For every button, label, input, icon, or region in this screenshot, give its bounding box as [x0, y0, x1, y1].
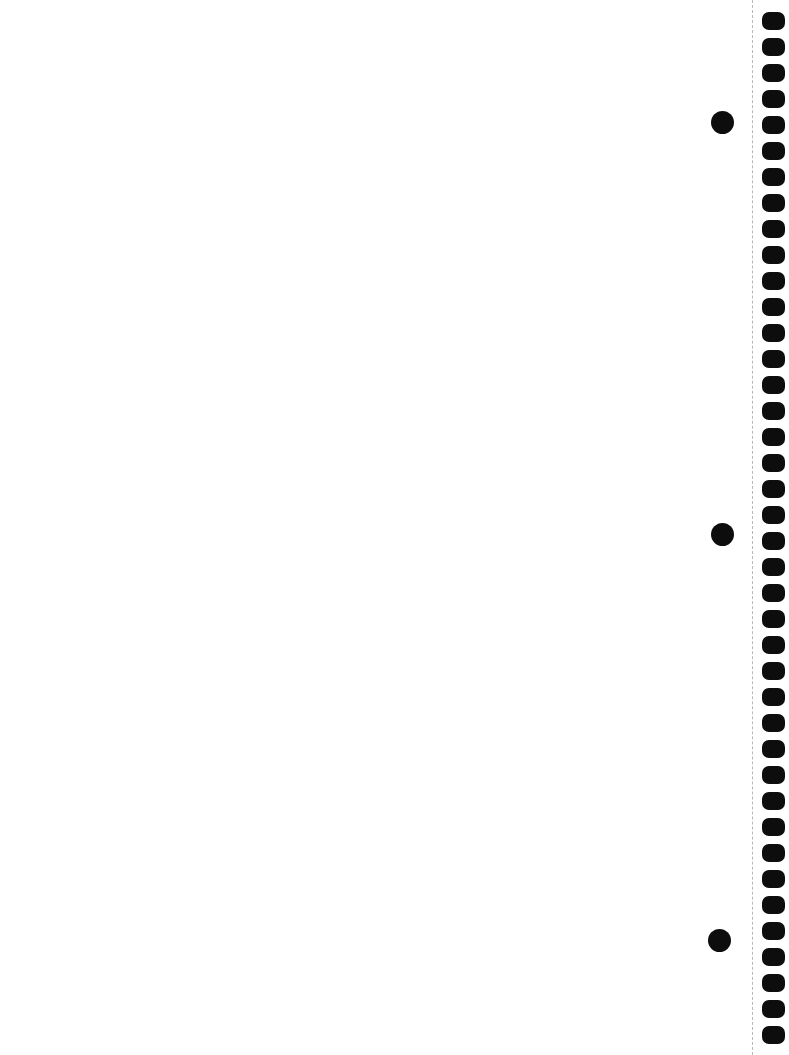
binding-punch-hole — [762, 116, 785, 134]
binding-punch-hole — [762, 948, 785, 966]
binding-punch-hole — [762, 350, 785, 368]
binding-punch-hole — [762, 818, 785, 836]
binding-punch-hole — [762, 220, 785, 238]
binding-punch-hole — [762, 38, 785, 56]
binding-punch-hole — [762, 402, 785, 420]
perforation-dashed-line — [752, 0, 753, 1055]
binding-punch-hole — [762, 662, 785, 680]
binding-punch-hole — [762, 142, 785, 160]
binding-punch-hole — [762, 896, 785, 914]
binding-punch-hole — [762, 428, 785, 446]
margin-mark-bottom — [708, 929, 731, 952]
binding-punch-hole — [762, 12, 785, 30]
binding-punch-hole — [762, 922, 785, 940]
binding-punch-hole — [762, 610, 785, 628]
binding-punch-hole — [762, 480, 785, 498]
binding-punch-hole — [762, 168, 785, 186]
binding-punch-hole — [762, 792, 785, 810]
binding-punch-hole — [762, 64, 785, 82]
blank-writing-area — [0, 0, 745, 1055]
binding-punch-hole — [762, 246, 785, 264]
binding-punch-hole — [762, 506, 785, 524]
binding-punch-hole — [762, 584, 785, 602]
binding-punch-hole — [762, 454, 785, 472]
binding-punch-hole — [762, 688, 785, 706]
binding-punch-hole — [762, 974, 785, 992]
binding-punch-hole — [762, 766, 785, 784]
binding-punch-hole — [762, 1026, 785, 1044]
binding-punch-hole — [762, 870, 785, 888]
margin-mark-middle — [711, 523, 734, 546]
binding-punch-hole — [762, 324, 785, 342]
binding-punch-hole — [762, 844, 785, 862]
binding-punch-hole — [762, 1000, 785, 1018]
binding-punch-hole — [762, 558, 785, 576]
binding-punch-hole — [762, 740, 785, 758]
binding-punch-hole — [762, 194, 785, 212]
binding-punch-hole — [762, 272, 785, 290]
binding-punch-hole — [762, 714, 785, 732]
binding-punch-hole — [762, 636, 785, 654]
scanned-notebook-page — [0, 0, 789, 1055]
binding-punch-hole — [762, 298, 785, 316]
binding-punch-hole — [762, 90, 785, 108]
binding-punch-hole — [762, 376, 785, 394]
binding-punch-hole — [762, 532, 785, 550]
binding-hole-strip — [758, 0, 789, 1055]
margin-mark-top — [711, 111, 734, 134]
